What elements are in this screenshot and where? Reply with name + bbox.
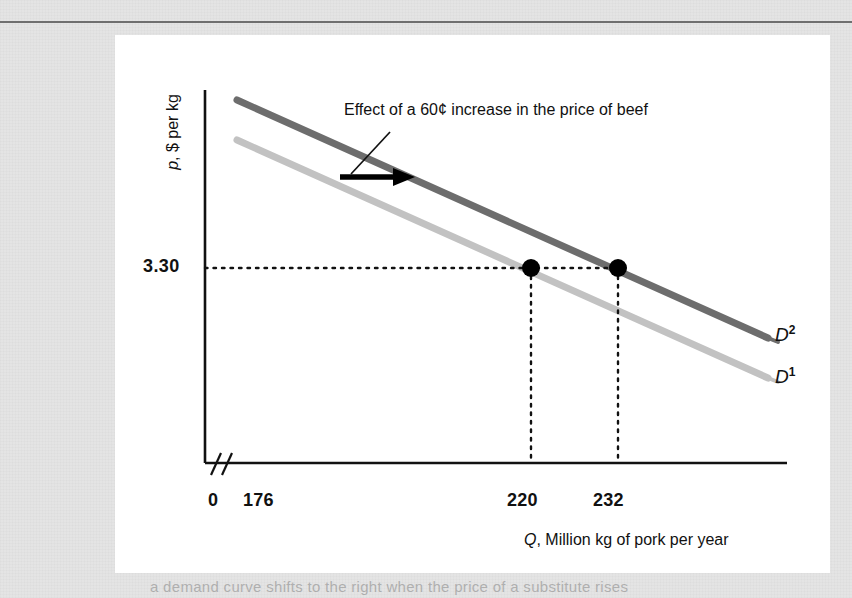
y-axis-title: p, $ per kg: [164, 52, 182, 212]
figure-panel: p, $ per kg 3.30 0 176 220 232 Q, Millio…: [115, 35, 830, 573]
x-tick-label-232: 232: [593, 490, 624, 511]
curve-label-d1-letter: D: [775, 366, 789, 387]
x-tick-label-220: 220: [507, 490, 538, 511]
x-axis-origin-label: 0: [208, 490, 218, 511]
demand-curve-d2: [237, 100, 768, 338]
shift-annotation-text: Effect of a 60¢ increase in the price of…: [344, 101, 648, 119]
x-axis-title: Q, Million kg of pork per year: [524, 531, 729, 549]
equilibrium-point-d1: [522, 259, 540, 277]
curve-label-d1-superscript: 1: [789, 365, 796, 379]
curve-label-d2-superscript: 2: [789, 323, 796, 337]
demand-curve-d1: [237, 140, 768, 378]
curve-label-d2-letter: D: [775, 324, 789, 345]
shift-arrow-icon: [340, 168, 415, 186]
figure-screenshot: a demand curve shifts to the right when …: [0, 0, 852, 598]
curve-label-d2: D2: [775, 323, 795, 346]
caption-ghost-text: a demand curve shifts to the right when …: [150, 578, 850, 596]
y-axis-symbol: p: [164, 161, 181, 170]
x-axis-title-rest: , Million kg of pork per year: [536, 531, 728, 548]
equilibrium-point-d2: [609, 259, 627, 277]
page-top-rule: [0, 21, 852, 23]
x-tick-label-176: 176: [243, 490, 274, 511]
x-axis-symbol: Q: [524, 531, 536, 548]
y-tick-label-3-30: 3.30: [143, 256, 180, 277]
curve-label-d1: D1: [775, 365, 795, 388]
y-axis-title-rest: , $ per kg: [164, 94, 181, 161]
